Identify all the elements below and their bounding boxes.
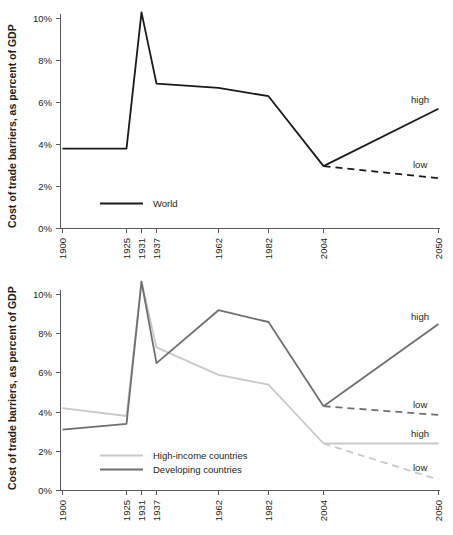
series-group-top: [63, 12, 439, 178]
legend-label-high-income: High-income countries: [153, 450, 248, 461]
legend-label-developing: Developing countries: [153, 464, 242, 475]
annotation-high-income-low: low: [413, 462, 427, 473]
annotation-high-top: high: [411, 94, 429, 105]
y-tick-label-2-b: 2%: [38, 446, 52, 457]
series-developing-line: [63, 282, 324, 430]
y-tick-label-8-b: 8%: [38, 328, 52, 339]
chart-panel-world: Cost of trade barriers, as percent of GD…: [0, 0, 453, 268]
x-tick-label-1962-b: 1962: [213, 500, 224, 521]
x-tick-label-1925-b: 1925: [121, 500, 132, 521]
x-tick-label-1900-b: 1900: [57, 500, 68, 521]
y-tick-label-8: 8%: [38, 55, 52, 66]
y-tick-group-top: [56, 19, 61, 229]
y-tick-labels-bottom: 10% 8% 6% 4% 2% 0%: [33, 289, 53, 496]
x-tick-label-2004: 2004: [318, 238, 329, 259]
annotation-high-income-high: high: [411, 428, 429, 439]
y-tick-label-2: 2%: [38, 181, 52, 192]
x-tick-labels-bottom: 1900 1925 1931 1937 1962 1982 2004 2050: [57, 500, 444, 521]
x-tick-label-1982-b: 1982: [263, 500, 274, 521]
series-world-line: [63, 12, 324, 166]
y-tick-label-0: 0%: [38, 223, 52, 234]
legend-label-world: World: [153, 198, 178, 209]
legend-bottom: High-income countries Developing countri…: [100, 450, 248, 475]
chart-panel-income-groups: Cost of trade barriers, as percent of GD…: [0, 268, 453, 535]
x-tick-group-bottom: [63, 491, 439, 496]
y-tick-labels-top: 10% 8% 6% 4% 2% 0%: [33, 13, 53, 234]
annotation-developing-low: low: [413, 399, 427, 410]
y-tick-label-10: 10%: [33, 13, 53, 24]
y-tick-label-0-b: 0%: [38, 485, 52, 496]
income-groups-chart-svg: Cost of trade barriers, as percent of GD…: [0, 268, 453, 535]
y-tick-label-10-b: 10%: [33, 289, 53, 300]
x-tick-label-1931-b: 1931: [136, 500, 147, 521]
caption-strip: [0, 527, 453, 535]
series-group-developing: [63, 282, 439, 430]
figure-two-panel-line-charts: Cost of trade barriers, as percent of GD…: [0, 0, 453, 535]
y-tick-group-bottom: [56, 295, 61, 491]
legend-top: World: [100, 198, 178, 209]
x-tick-label-1962: 1962: [213, 238, 224, 259]
series-high-income-line: [63, 282, 324, 444]
annotation-developing-high: high: [411, 311, 429, 322]
y-tick-label-6-b: 6%: [38, 367, 52, 378]
annotation-low-top: low: [413, 159, 427, 170]
series-group-high-income: [63, 282, 439, 480]
y-tick-label-4: 4%: [38, 139, 52, 150]
y-tick-label-6: 6%: [38, 97, 52, 108]
x-tick-group-top: [63, 229, 439, 234]
x-tick-label-1982: 1982: [263, 238, 274, 259]
x-tick-label-1931: 1931: [136, 238, 147, 259]
x-tick-label-1925: 1925: [121, 238, 132, 259]
x-tick-label-1937-b: 1937: [151, 500, 162, 521]
x-tick-label-2050-b: 2050: [433, 500, 444, 521]
y-axis-title-top: Cost of trade barriers, as percent of GD…: [6, 24, 18, 228]
x-tick-label-2050: 2050: [433, 238, 444, 259]
series-developing-high-line: [324, 324, 439, 406]
y-tick-label-4-b: 4%: [38, 407, 52, 418]
world-chart-svg: Cost of trade barriers, as percent of GD…: [0, 0, 453, 268]
x-tick-label-1900: 1900: [57, 238, 68, 259]
x-tick-label-2004-b: 2004: [318, 500, 329, 521]
x-tick-label-1937: 1937: [151, 238, 162, 259]
y-axis-title-bottom: Cost of trade barriers, as percent of GD…: [6, 286, 18, 490]
series-world-high-line: [324, 109, 439, 166]
x-tick-labels-top: 1900 1925 1931 1937 1962 1982 2004 2050: [57, 238, 444, 259]
